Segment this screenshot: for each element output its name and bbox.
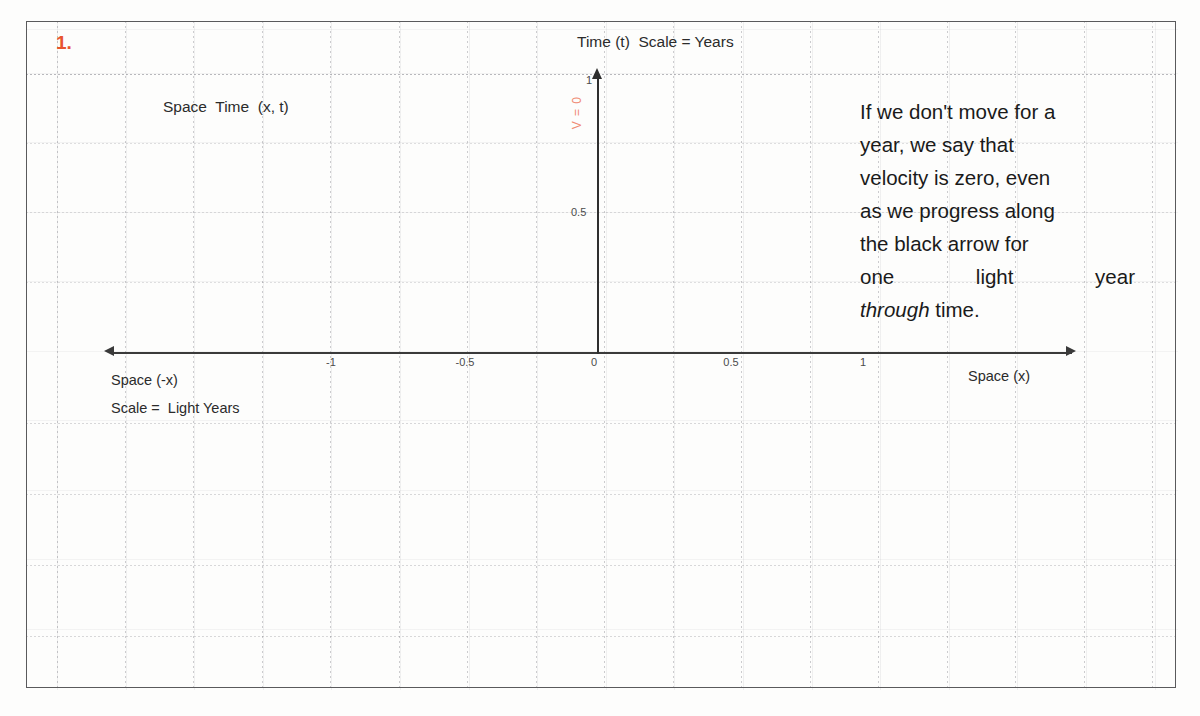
item-number: 1. (56, 32, 72, 54)
explanation-paragraph: If we don't move for ayear, we say thatv… (860, 95, 1135, 326)
t-tick-label: 0.5 (571, 206, 586, 218)
grid-hrule (26, 636, 1178, 637)
grid-vrule (741, 21, 742, 690)
scanned-page: 1. Time (t) Scale = Years Space Time (x,… (0, 0, 1200, 716)
explanation-line: one light year (860, 260, 1135, 293)
grid-vrule (57, 21, 58, 690)
grid-vrule (604, 21, 605, 690)
x-axis-arrowhead-right-icon (1066, 346, 1076, 356)
explanation-emphasis-word: through (860, 298, 930, 321)
t-tick-label: 1 (586, 74, 592, 86)
grid-hrule (26, 74, 1178, 75)
grid-hrule (26, 423, 1178, 424)
explanation-line: velocity is zero, even (860, 161, 1135, 194)
x-tick-label: 0 (591, 356, 597, 368)
t-axis-worldline (597, 78, 599, 354)
grid-hrule (26, 494, 1178, 495)
explanation-line: If we don't move for a (860, 95, 1135, 128)
spacetime-annotation-label: Space Time (x, t) (163, 98, 289, 116)
t-axis-arrowhead-up-icon (592, 68, 602, 79)
x-axis-negative-caption: Space (-x) (111, 372, 178, 388)
x-axis-line (110, 352, 1072, 354)
explanation-line: the black arrow for (860, 227, 1135, 260)
velocity-zero-annotation: V = 0 (570, 96, 584, 129)
chart-title: Time (t) Scale = Years (577, 33, 734, 51)
x-tick-label: 0.5 (723, 356, 738, 368)
grid-hrule (26, 565, 1178, 566)
grid-vrule (125, 21, 126, 690)
explanation-text: If we don't move for ayear, we say thatv… (860, 95, 1135, 326)
grid-vrule (193, 21, 194, 690)
x-axis-arrowhead-left-icon (104, 346, 114, 356)
grid-vrule (673, 21, 674, 690)
x-tick-label: -1 (326, 356, 336, 368)
grid-vrule (810, 21, 811, 690)
x-axis-scale-caption: Scale = Light Years (111, 400, 240, 416)
x-tick-label: -0.5 (456, 356, 475, 368)
grid-vrule (536, 21, 537, 690)
grid-vrule (399, 21, 400, 690)
x-axis-positive-caption: Space (x) (968, 368, 1030, 384)
grid-vrule (1152, 21, 1153, 690)
x-tick-label: 1 (860, 356, 866, 368)
explanation-line: through time. (860, 293, 1135, 326)
explanation-line: as we progress along (860, 194, 1135, 227)
explanation-line: year, we say that (860, 128, 1135, 161)
grid-vrule (262, 21, 263, 690)
